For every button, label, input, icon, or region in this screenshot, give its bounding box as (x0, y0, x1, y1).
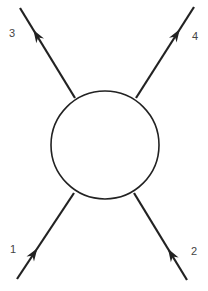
leg-2: 2 (134, 193, 197, 280)
leg-2-line (134, 193, 187, 280)
leg-3-label: 3 (9, 27, 15, 39)
leg-1-label: 1 (10, 243, 16, 255)
leg-1-arrow-icon (27, 248, 38, 261)
leg-1: 1 (10, 193, 74, 279)
interaction-blob (51, 91, 159, 199)
leg-1-line (17, 193, 74, 279)
leg-2-label: 2 (191, 245, 197, 257)
leg-3-line (20, 8, 75, 98)
leg-2-arrow-icon (168, 249, 179, 262)
scattering-diagram: 1 2 3 4 (0, 0, 208, 291)
leg-4-label: 4 (192, 30, 198, 42)
leg-3-arrow-icon (33, 30, 44, 43)
leg-4-arrow-icon (169, 29, 180, 42)
leg-4-line (136, 7, 194, 98)
leg-3: 3 (9, 8, 75, 98)
leg-4: 4 (136, 7, 198, 98)
